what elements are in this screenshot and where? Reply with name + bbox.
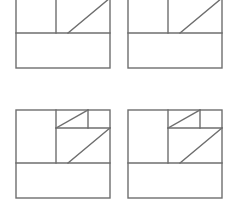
drawing-canvas (0, 0, 235, 200)
figure-top-right (128, 0, 222, 68)
figure-outer-rect (128, 110, 222, 198)
figure-grid (0, 0, 235, 200)
figure-bottom-right (128, 110, 222, 198)
figure-bottom-left (16, 110, 110, 198)
figure-outer-rect (16, 110, 110, 198)
figure-top-left (16, 0, 110, 68)
